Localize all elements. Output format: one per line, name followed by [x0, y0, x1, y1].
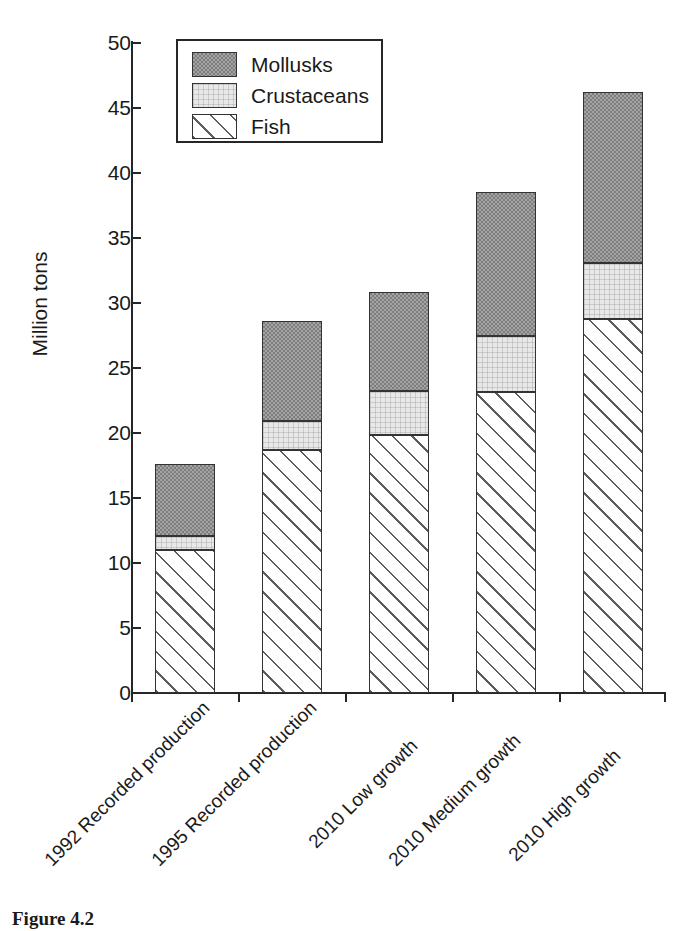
bar-segment-crustaceans[interactable]: [262, 421, 322, 450]
y-tick-label-40: 40: [85, 162, 131, 183]
bar-segment-mollusks[interactable]: [155, 464, 215, 536]
figure-caption: Figure 4.2: [12, 908, 94, 931]
x-tick-mark-5: [664, 692, 666, 702]
legend-label-fish: Fish: [251, 116, 291, 137]
bar-segment-mollusks[interactable]: [369, 292, 429, 391]
bar-segment-crustaceans[interactable]: [583, 263, 643, 319]
x-tick-mark-1: [238, 692, 240, 702]
x-category-label-2010-low-growth: 2010 Low growth: [305, 736, 421, 852]
bar-segment-mollusks[interactable]: [262, 321, 322, 421]
bar-segment-fish[interactable]: [155, 550, 215, 693]
legend-swatch-crustaceans-icon: [192, 83, 237, 108]
legend-item-crustaceans[interactable]: Crustaceans: [192, 81, 369, 109]
y-tick-label-20: 20: [85, 422, 131, 443]
bar-segment-crustaceans[interactable]: [369, 391, 429, 435]
bar-segment-mollusks[interactable]: [583, 92, 643, 263]
y-tick-label-25: 25: [85, 357, 131, 378]
x-tick-mark-0: [131, 692, 133, 702]
bar-segment-mollusks[interactable]: [476, 192, 536, 336]
legend-label-crustaceans: Crustaceans: [251, 85, 369, 106]
y-tick-label-35: 35: [85, 227, 131, 248]
bar-segment-crustaceans[interactable]: [476, 336, 536, 392]
bar-segment-fish[interactable]: [476, 392, 536, 693]
y-tick-label-50: 50: [85, 32, 131, 53]
bar-segment-fish[interactable]: [262, 450, 322, 693]
bar-segment-crustaceans[interactable]: [155, 536, 215, 550]
legend-swatch-mollusks-icon: [192, 52, 237, 77]
y-tick-label-30: 30: [85, 292, 131, 313]
x-category-label-2010-high-growth: 2010 High growth: [505, 746, 624, 865]
legend-item-mollusks[interactable]: Mollusks: [192, 50, 333, 78]
y-tick-label-45: 45: [85, 97, 131, 118]
y-tick-label-5: 5: [85, 617, 131, 638]
bar-segment-fish[interactable]: [369, 435, 429, 693]
legend-label-mollusks: Mollusks: [251, 54, 333, 75]
x-tick-mark-4: [559, 692, 561, 702]
legend-swatch-fish-icon: [192, 114, 237, 139]
chart-figure: Million tons 50 45 40 35 30 25 20 15 10 …: [0, 0, 697, 931]
legend-item-fish[interactable]: Fish: [192, 112, 291, 140]
legend: Mollusks Crustaceans Fish: [176, 39, 383, 143]
bar-segment-fish[interactable]: [583, 319, 643, 693]
y-tick-label-0: 0: [85, 682, 131, 703]
y-tick-label-15: 15: [85, 487, 131, 508]
x-tick-mark-2: [345, 692, 347, 702]
y-tick-label-10: 10: [85, 552, 131, 573]
x-tick-mark-3: [452, 692, 454, 702]
